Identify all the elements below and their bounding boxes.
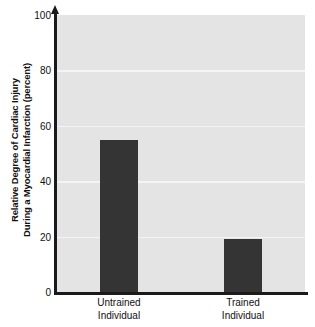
y-axis-tick-label: 0 <box>5 287 55 298</box>
bar-chart-figure: Relative Degree of Cardiac Injury During… <box>0 0 315 327</box>
x-axis-tick-label-line-2: Individual <box>64 310 174 323</box>
y-axis-tick-label: 100 <box>5 10 55 21</box>
gridline <box>57 237 305 239</box>
x-axis-line <box>54 292 308 295</box>
gridline <box>57 70 305 72</box>
plot-area <box>57 15 305 292</box>
gridline <box>57 181 305 183</box>
x-axis-tick-label: TrainedIndividual <box>188 297 298 322</box>
gridline <box>57 126 305 128</box>
bar <box>224 239 262 292</box>
y-axis-arrow-icon <box>51 5 59 14</box>
y-axis-line <box>54 12 57 294</box>
y-axis-tick-labels: 020406080100 <box>0 0 55 327</box>
y-axis-tick-label: 20 <box>5 231 55 242</box>
x-axis-tick-label-line-2: Individual <box>188 310 298 323</box>
plot-frame <box>57 15 305 292</box>
y-axis-tick-label: 60 <box>5 120 55 131</box>
x-axis-tick-label-line-1: Trained <box>226 297 260 308</box>
x-axis-tick-label: UntrainedIndividual <box>64 297 174 322</box>
x-axis-tick-label-line-1: Untrained <box>97 297 140 308</box>
y-axis-tick-label: 40 <box>5 176 55 187</box>
bar <box>100 140 138 292</box>
y-axis-tick-label: 80 <box>5 65 55 76</box>
